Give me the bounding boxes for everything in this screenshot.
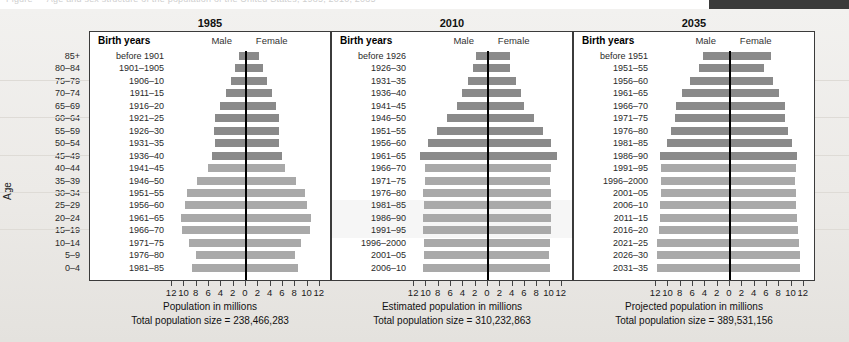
- legend-female-label: Female: [498, 35, 530, 46]
- x-tick-label: 4: [267, 287, 272, 298]
- pyramid-row: 1921–25: [90, 113, 330, 125]
- legend-male-label: Male: [695, 35, 716, 46]
- pyramid-row: 1986–90: [574, 151, 814, 163]
- age-tick-label: 40–44: [55, 163, 80, 173]
- bar-female: [246, 139, 279, 147]
- birth-year-label: 1941–45: [90, 163, 164, 175]
- x-tick: [717, 281, 718, 286]
- bar-female: [488, 52, 510, 60]
- x-tick-label: 6: [447, 287, 452, 298]
- bar-male: [187, 189, 246, 197]
- birth-year-label: 1926–30: [90, 126, 164, 138]
- x-tick-label: 12: [166, 287, 177, 298]
- age-tick-label: 35–39: [55, 176, 80, 186]
- pyramid-row: 1926–30: [332, 63, 572, 75]
- bar-female: [730, 114, 785, 122]
- pyramid-row: 1991–95: [332, 225, 572, 237]
- bar-female: [246, 52, 259, 60]
- birth-year-label: 1971–75: [332, 176, 406, 188]
- bar-male: [423, 264, 488, 272]
- bar-female: [246, 177, 296, 185]
- bar-male: [660, 214, 730, 222]
- x-tick-label: 0: [242, 287, 247, 298]
- x-tick: [319, 281, 320, 286]
- x-tick-label: 6: [763, 287, 768, 298]
- bar-male: [423, 226, 488, 234]
- pyramid-row: 1956–60: [90, 200, 330, 212]
- bar-female: [730, 214, 797, 222]
- bar-female: [488, 152, 557, 160]
- x-tick: [257, 281, 258, 286]
- birth-year-label: 1961–65: [90, 213, 164, 225]
- age-tick-label: 80–84: [55, 63, 80, 73]
- age-tick-label: 50–54: [55, 138, 80, 148]
- panel-header: Birth yearsMaleFemale: [574, 35, 814, 49]
- pyramid-row: 1916–20: [90, 101, 330, 113]
- pyramid-panel-2035: Birth yearsMaleFemalebefore 19511951–551…: [573, 31, 815, 281]
- x-tick: [270, 281, 271, 286]
- pyramid-row: 1976–80: [332, 188, 572, 200]
- bar-male: [437, 127, 488, 135]
- bar-male: [185, 201, 246, 209]
- bar-male: [659, 226, 730, 234]
- x-tick-label: 8: [776, 287, 781, 298]
- birth-year-label: 1991–95: [574, 163, 648, 175]
- bar-male: [231, 77, 246, 85]
- pyramid-row: 2006–10: [574, 200, 814, 212]
- bar-female: [730, 177, 795, 185]
- x-tick: [450, 281, 451, 286]
- pyramid-row: before 1901: [90, 51, 330, 63]
- bar-male: [660, 201, 730, 209]
- bar-male: [447, 114, 488, 122]
- x-tick-label: 2: [497, 287, 502, 298]
- bar-female: [246, 114, 279, 122]
- x-tick-label: 8: [534, 287, 539, 298]
- birth-year-label: 1936–40: [332, 88, 406, 100]
- birth-year-label: 1921–25: [90, 113, 164, 125]
- panel-header: Birth yearsMaleFemale: [332, 35, 572, 49]
- bar-female: [730, 201, 796, 209]
- pyramid-row: before 1951: [574, 51, 814, 63]
- age-tick-label: 60–64: [55, 113, 80, 123]
- bar-male: [420, 152, 488, 160]
- pyramid-row: 1951–55: [90, 188, 330, 200]
- pyramid-panel-1985: Birth yearsMaleFemalebefore 19011901–190…: [89, 31, 331, 281]
- bar-male: [215, 114, 246, 122]
- bar-male: [189, 239, 246, 247]
- bar-female: [730, 52, 771, 60]
- bar-female: [246, 164, 285, 172]
- bar-male: [675, 114, 730, 122]
- x-tick: [425, 281, 426, 286]
- birth-year-label: 1941–45: [332, 101, 406, 113]
- age-tick-label: 30–34: [55, 188, 80, 198]
- bar-male: [682, 89, 730, 97]
- bar-female: [488, 77, 516, 85]
- x-tick: [524, 281, 525, 286]
- x-axis-ticks: [89, 281, 331, 286]
- birth-year-label: 2001–05: [574, 188, 648, 200]
- bar-male: [226, 89, 246, 97]
- bar-female: [730, 127, 788, 135]
- bar-male: [212, 152, 246, 160]
- pyramid-row: 2001–05: [332, 250, 572, 262]
- bar-female: [246, 152, 282, 160]
- x-axis-ticks: [573, 281, 815, 286]
- birth-year-label: 1946–50: [90, 176, 164, 188]
- birth-years-header: Birth years: [582, 35, 634, 46]
- birth-year-label: 1991–95: [332, 225, 406, 237]
- total-population-label: Total population size = 389,531,156: [573, 315, 815, 326]
- x-axis-label: Estimated population in millions: [331, 301, 573, 312]
- birth-year-label: 1901–1905: [90, 63, 164, 75]
- x-tick: [791, 281, 792, 286]
- bar-female: [488, 102, 524, 110]
- age-tick-label: 25–29: [55, 200, 80, 210]
- panel-title-1985: 1985: [89, 17, 331, 29]
- x-tick-label: 4: [509, 287, 514, 298]
- bar-male: [661, 189, 730, 197]
- bar-female: [246, 89, 272, 97]
- x-tick-label: 2: [230, 287, 235, 298]
- x-tick-label: 4: [460, 287, 465, 298]
- x-tick: [803, 281, 804, 286]
- pyramid-row: 1996–2000: [574, 176, 814, 188]
- birth-year-label: 1961–65: [574, 88, 648, 100]
